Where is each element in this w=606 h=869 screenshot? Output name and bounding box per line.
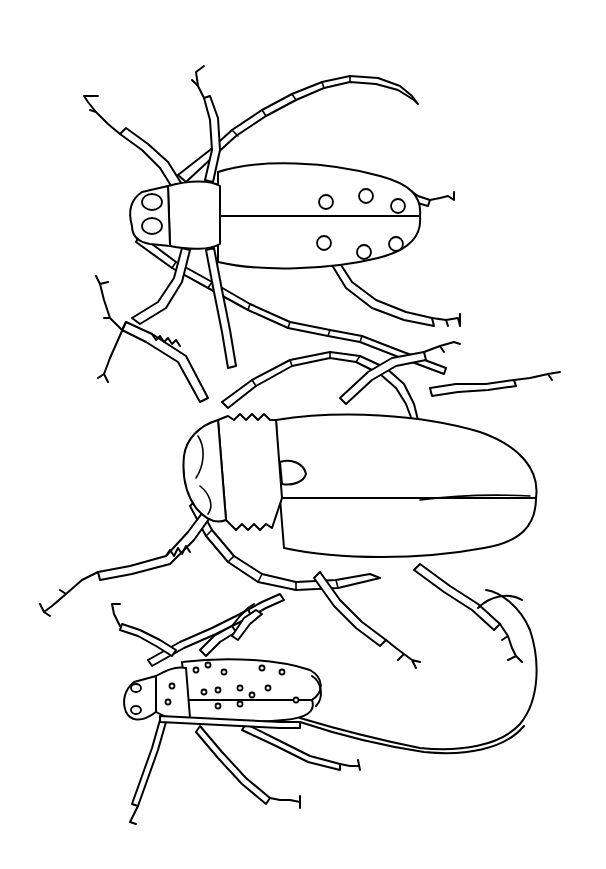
beetle-middle [40, 276, 560, 668]
beetle-bottom [112, 590, 537, 824]
coloring-page [0, 0, 606, 869]
